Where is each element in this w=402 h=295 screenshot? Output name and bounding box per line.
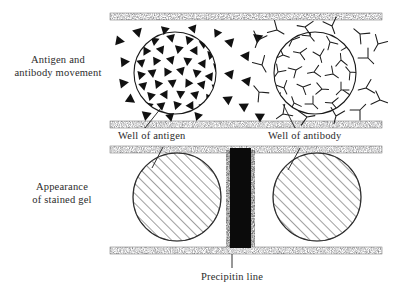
label-precipitin-line: Precipitin line (167, 271, 297, 282)
label-well-of-antibody: Well of antibody (268, 130, 342, 141)
antibody-y-group-inside (269, 28, 358, 113)
immunodiffusion-figure: Antigen and antibody movement Appearance… (0, 0, 402, 295)
antibody-y-group-outside (248, 17, 389, 126)
stained-gel-panel (110, 146, 382, 254)
movement-panel (110, 13, 390, 128)
label-antigen-antibody-movement: Antigen and antibody movement (6, 53, 110, 79)
label-appearance-of-stained-gel: Appearance of stained gel (14, 180, 110, 206)
stained-panel-bottom-edge (110, 247, 382, 254)
stained-antigen-well (133, 153, 221, 241)
antigen-triangle-group-inside (135, 34, 222, 113)
movement-panel-top-edge (110, 13, 382, 20)
precipitin-band (226, 148, 255, 248)
label-well-of-antigen: Well of antigen (118, 130, 185, 141)
movement-panel-bottom-edge (110, 121, 382, 128)
figure-canvas (0, 0, 402, 295)
stained-antibody-well (273, 153, 361, 241)
